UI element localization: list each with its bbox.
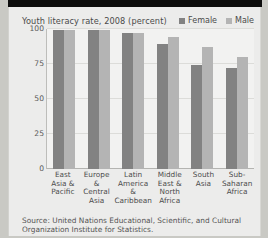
chart-page: Youth literacy rate, 2008 (percent) Fema… <box>0 0 268 238</box>
y-axis-tick-label: 100 <box>30 24 45 33</box>
plot-area: 1007550250 <box>46 29 254 169</box>
legend-swatch-female <box>179 18 185 24</box>
bar-group <box>185 29 220 169</box>
x-axis-label: LatinAmerica &Caribbean <box>113 171 152 205</box>
bar-female[interactable] <box>226 68 237 169</box>
bar-male[interactable] <box>64 30 75 169</box>
bar-male[interactable] <box>133 33 144 169</box>
y-axis-tick-label: 25 <box>34 129 44 138</box>
bar-group <box>151 29 186 169</box>
bar-female[interactable] <box>191 65 202 169</box>
x-axis-label: MiddleEast &NorthAfrica <box>153 171 187 205</box>
bar-group <box>47 29 82 169</box>
bar-male[interactable] <box>237 57 248 169</box>
chart-card: Youth literacy rate, 2008 (percent) Fema… <box>8 7 261 236</box>
y-axis-tick-label: 0 <box>39 164 44 173</box>
bar-groups <box>47 29 254 169</box>
legend-item-female: Female <box>179 16 217 25</box>
legend-swatch-male <box>226 18 232 24</box>
x-axis-label: Europe &CentralAsia <box>80 171 114 205</box>
bar-group <box>116 29 151 169</box>
legend-label-female: Female <box>188 16 217 25</box>
x-axis-labels: EastAsia &PacificEurope &CentralAsiaLati… <box>46 171 254 205</box>
bar-female[interactable] <box>157 44 168 169</box>
bar-group <box>82 29 117 169</box>
legend-label-male: Male <box>235 16 254 25</box>
bar-male[interactable] <box>202 47 213 169</box>
y-axis-tick-label: 50 <box>34 94 44 103</box>
bar-male[interactable] <box>168 37 179 169</box>
x-axis-label: EastAsia &Pacific <box>46 171 80 205</box>
legend-item-male: Male <box>226 16 254 25</box>
bar-female[interactable] <box>88 30 99 169</box>
plot-wrapper: 1007550250 EastAsia &PacificEurope &Cent… <box>22 29 254 207</box>
bar-female[interactable] <box>122 33 133 169</box>
x-axis-label: Sub-SaharanAfrica <box>220 171 254 205</box>
bar-group <box>220 29 255 169</box>
source-note: Source: United Nations Educational, Scie… <box>22 216 247 234</box>
x-axis-label: SouthAsia <box>187 171 221 205</box>
bar-male[interactable] <box>99 30 110 169</box>
chart-legend: Female Male <box>179 16 254 25</box>
y-axis-tick-label: 75 <box>34 59 44 68</box>
bar-female[interactable] <box>53 30 64 169</box>
top-black-bar <box>8 0 262 7</box>
